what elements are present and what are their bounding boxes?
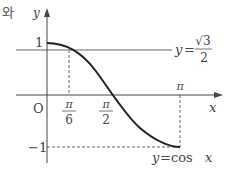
function-label: y = cos x (151, 150, 213, 165)
fn-label-rhs: cos (171, 150, 193, 165)
y-axis-label: y (32, 6, 40, 20)
horizontal-line-label: y = √3 2 (174, 34, 212, 65)
y-axis-arrow-icon (44, 8, 50, 17)
fn-label-y: y (151, 150, 160, 165)
fn-label-x: x (205, 150, 213, 165)
hl-label-den: 2 (200, 51, 208, 65)
hl-label-eq: = (184, 42, 195, 57)
x-tick-pi-over-6-den: 6 (65, 113, 73, 127)
korean-fragment-text: 와 (2, 5, 14, 20)
x-axis-label: x (209, 100, 217, 115)
hl-label-y: y (174, 42, 183, 57)
hl-label-num: √3 (195, 34, 210, 48)
x-tick-pi-over-2: π 2 (99, 98, 113, 127)
y-tick-minus-1: −1 (28, 140, 47, 155)
x-tick-pi: π (175, 80, 184, 93)
x-tick-pi-over-6: π 6 (62, 98, 76, 127)
y-tick-1: 1 (35, 35, 43, 50)
cosine-graph: 와 y x O 1 −1 π 6 π 2 π y = √3 2 y = (0, 0, 227, 169)
origin-label: O (33, 101, 44, 116)
x-tick-pi-over-2-den: 2 (102, 113, 110, 127)
fn-label-eq: = (160, 150, 171, 165)
x-tick-pi-over-6-num: π (64, 98, 73, 111)
x-tick-pi-over-2-num: π (101, 98, 110, 111)
x-axis-arrow-icon (214, 92, 223, 98)
